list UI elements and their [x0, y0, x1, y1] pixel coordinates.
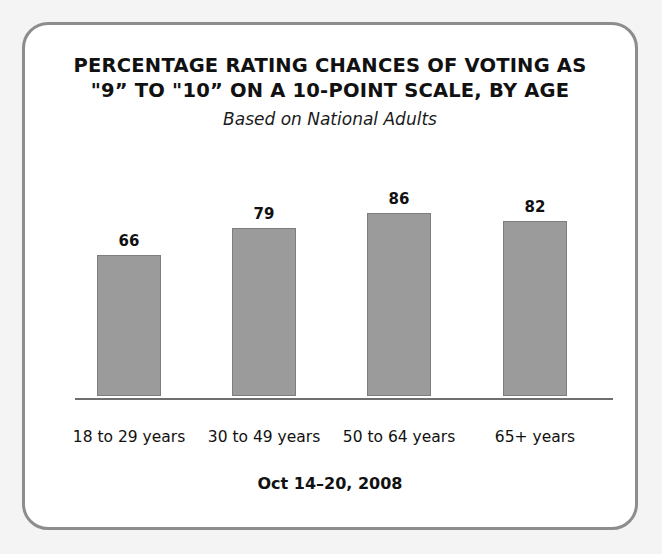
chart-frame: PERCENTAGE RATING CHANCES OF VOTING AS "…: [22, 22, 638, 530]
bar-value-label: 66: [119, 232, 140, 250]
bar-category-label: 65+ years: [495, 428, 575, 446]
bar-value-label: 82: [525, 198, 546, 216]
bar: [367, 213, 431, 396]
bar-category-label: 18 to 29 years: [73, 428, 185, 446]
bar-category-label: 30 to 49 years: [208, 428, 320, 446]
bar: [503, 221, 567, 396]
plot-area: 66 18 to 29 years 79 30 to 49 years 86 5…: [25, 25, 635, 527]
bar-category-label: 50 to 64 years: [343, 428, 455, 446]
bar: [232, 228, 296, 396]
chart-footer-date: Oct 14–20, 2008: [25, 474, 635, 493]
bar-value-label: 79: [254, 205, 275, 223]
bar-value-label: 86: [389, 190, 410, 208]
bar: [97, 255, 161, 396]
x-axis-line: [75, 398, 613, 400]
